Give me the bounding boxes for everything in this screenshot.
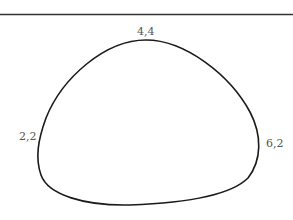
point-label-top: 4,4	[137, 26, 155, 37]
closed-curve	[38, 40, 259, 205]
point-label-left: 2,2	[19, 131, 37, 142]
diagram-canvas: 4,4 2,2 6,2	[0, 0, 293, 220]
point-label-right: 6,2	[266, 138, 284, 149]
